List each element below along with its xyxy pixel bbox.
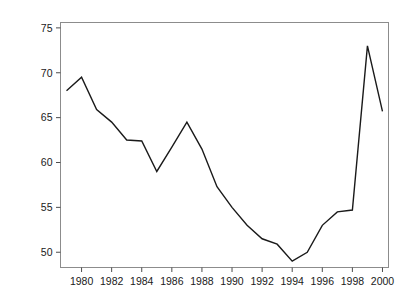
line-chart-svg: 505560657075 198019821984198619881990199…	[0, 0, 408, 300]
x-tick-label: 1990	[220, 275, 244, 287]
y-tick-label: 65	[41, 111, 53, 123]
y-tick-label: 75	[41, 22, 53, 34]
chart-background	[0, 0, 408, 300]
x-tick-label: 1982	[100, 275, 124, 287]
x-tick-label: 1996	[311, 275, 335, 287]
x-tick-label: 1992	[250, 275, 274, 287]
y-tick-label: 60	[41, 156, 53, 168]
x-tick-label: 1980	[70, 275, 94, 287]
x-tick-label: 1998	[341, 275, 365, 287]
x-tick-label: 1986	[160, 275, 184, 287]
x-tick-label: 1994	[281, 275, 305, 287]
x-tick-label: 1984	[130, 275, 154, 287]
y-tick-label: 70	[41, 67, 53, 79]
y-tick-label: 50	[41, 246, 53, 258]
x-tick-label: 1988	[190, 275, 214, 287]
x-tick-label: 2000	[371, 275, 395, 287]
chart-container: Trade (% of GDP) 505560657075 1980198219…	[0, 0, 408, 300]
y-tick-label: 55	[41, 201, 53, 213]
